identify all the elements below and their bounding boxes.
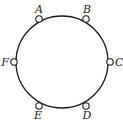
node-f-label: F	[0, 56, 9, 69]
node-d-label: D	[82, 109, 92, 121]
circular-diagram: ABCDEF	[0, 0, 123, 121]
nodes-group: ABCDEF	[0, 3, 123, 121]
node-b-marker	[83, 16, 89, 22]
node-a-marker	[36, 16, 42, 22]
node-a-label: A	[34, 3, 43, 16]
ring-circle	[16, 16, 108, 108]
node-b-label: B	[82, 3, 91, 16]
node-e-label: E	[33, 109, 42, 121]
node-c-marker	[107, 59, 113, 65]
node-f-marker	[11, 59, 17, 65]
node-c-label: C	[115, 56, 123, 69]
